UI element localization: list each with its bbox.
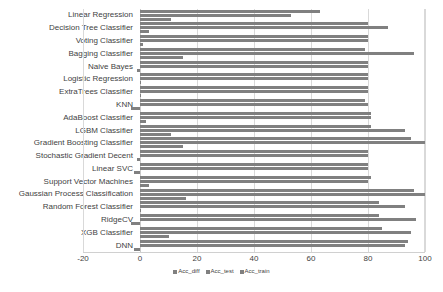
- bar-group: [83, 112, 425, 125]
- bar-acc_test: [140, 14, 291, 17]
- bar-acc_train: [140, 201, 379, 204]
- bar-group: [83, 176, 425, 189]
- bar-acc_test: [140, 129, 405, 132]
- bar-acc_test: [140, 39, 368, 42]
- bar-group: [83, 227, 425, 240]
- x-axis-labels: -20020406080100: [83, 254, 425, 268]
- legend-swatch-icon: [240, 270, 244, 274]
- legend-item[interactable]: Acc_test: [206, 267, 234, 276]
- legend-label: Acc_diff: [178, 267, 199, 276]
- bar-acc_diff: [140, 235, 169, 238]
- plot-area: [83, 9, 425, 252]
- gridline-100: [425, 9, 426, 252]
- bar-acc_train: [140, 10, 320, 13]
- bar-acc_diff: [131, 107, 140, 110]
- x-axis-tick-label: -20: [77, 254, 89, 264]
- bar-group: [83, 73, 425, 86]
- bar-group: [83, 86, 425, 99]
- bar-acc_test: [140, 103, 368, 106]
- bar-chart: Linear RegressionDecision Tree Classifie…: [0, 0, 443, 292]
- bar-acc_diff: [140, 133, 171, 136]
- bar-acc_train: [140, 35, 368, 38]
- bar-acc_train: [140, 240, 408, 243]
- bar-acc_test: [140, 77, 368, 80]
- bar-acc_diff: [137, 69, 140, 72]
- bar-acc_test: [140, 205, 405, 208]
- bar-acc_test: [140, 52, 414, 55]
- bar-acc_train: [140, 61, 368, 64]
- bar-acc_diff: [140, 184, 149, 187]
- legend-item[interactable]: Acc_diff: [173, 267, 199, 276]
- legend-swatch-icon: [173, 270, 177, 274]
- bar-group: [83, 61, 425, 74]
- legend-item[interactable]: Acc_train: [240, 267, 270, 276]
- bar-acc_test: [140, 244, 405, 247]
- bar-acc_diff: [140, 209, 141, 212]
- bar-acc_diff: [131, 222, 140, 225]
- bar-acc_test: [140, 193, 425, 196]
- x-axis-tick-label: 40: [250, 254, 259, 264]
- bar-acc_diff: [140, 94, 141, 97]
- bar-group: [83, 189, 425, 202]
- bar-group: [83, 99, 425, 112]
- legend-swatch-icon: [206, 270, 210, 274]
- x-axis-tick-label: 0: [138, 254, 142, 264]
- bar-acc_diff: [140, 18, 171, 21]
- bar-acc_train: [140, 112, 371, 115]
- bar-acc_train: [140, 227, 382, 230]
- x-axis-tick-label: 100: [418, 254, 431, 264]
- bar-acc_train: [140, 86, 368, 89]
- bar-acc_test: [140, 180, 368, 183]
- bar-acc_test: [140, 26, 388, 29]
- bar-group: [83, 48, 425, 61]
- bar-acc_diff: [140, 81, 141, 84]
- x-axis-tick-label: 20: [193, 254, 202, 264]
- bar-acc_diff: [140, 120, 146, 123]
- bar-acc_test: [140, 231, 411, 234]
- bar-acc_test: [140, 141, 425, 144]
- bar-group: [83, 150, 425, 163]
- bar-group: [83, 35, 425, 48]
- bar-acc_test: [140, 90, 368, 93]
- bar-acc_train: [140, 99, 365, 102]
- bar-acc_diff: [140, 145, 183, 148]
- bar-acc_diff: [140, 43, 143, 46]
- legend-label: Acc_train: [245, 267, 270, 276]
- bar-acc_diff: [140, 56, 183, 59]
- bar-acc_train: [140, 176, 371, 179]
- x-axis-line: [83, 252, 425, 253]
- bar-acc_train: [140, 22, 368, 25]
- bar-group: [83, 137, 425, 150]
- bar-acc_train: [140, 48, 365, 51]
- bar-group: [83, 201, 425, 214]
- bar-acc_test: [140, 154, 368, 157]
- bar-acc_diff: [134, 171, 140, 174]
- bar-acc_train: [140, 125, 371, 128]
- bar-acc_train: [140, 150, 368, 153]
- bar-group: [83, 22, 425, 35]
- legend-label: Acc_test: [211, 267, 234, 276]
- bar-acc_train: [140, 137, 411, 140]
- bar-acc_train: [140, 163, 368, 166]
- bar-group: [83, 163, 425, 176]
- bar-group: [83, 10, 425, 23]
- bar-acc_test: [140, 218, 416, 221]
- bar-acc_diff: [140, 30, 149, 33]
- bar-acc_train: [140, 73, 368, 76]
- bar-acc_test: [140, 65, 368, 68]
- bar-acc_train: [140, 214, 379, 217]
- bar-acc_diff: [140, 197, 186, 200]
- bar-acc_train: [140, 189, 414, 192]
- bar-acc_test: [140, 167, 368, 170]
- bar-group: [83, 214, 425, 227]
- bar-acc_diff: [137, 158, 140, 161]
- x-axis-tick-label: 80: [364, 254, 373, 264]
- chart-legend: Acc_diffAcc_testAcc_train: [0, 267, 443, 276]
- x-axis-tick-label: 60: [307, 254, 316, 264]
- bar-acc_diff: [134, 248, 140, 251]
- bar-group: [83, 240, 425, 253]
- bar-acc_test: [140, 116, 371, 119]
- bar-group: [83, 125, 425, 138]
